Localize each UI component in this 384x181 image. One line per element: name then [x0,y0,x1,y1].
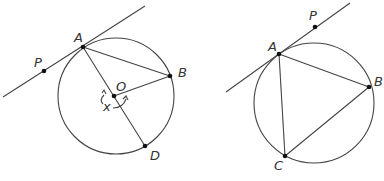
point-b [367,85,372,90]
geometry-diagram: A B O D P x A B C P [0,0,384,181]
right-tangent-line [226,3,350,92]
point-b [168,74,173,79]
label-a: A [267,39,277,54]
label-a: A [73,30,83,45]
chord-ab [83,47,170,76]
label-angle-x: x [102,99,111,114]
label-p: P [309,8,317,23]
point-a [81,45,86,50]
label-o: O [116,79,126,94]
angle-arc-right-icon [113,99,126,108]
arrowhead-left-icon [102,90,106,94]
left-figure: A B O D P x [3,6,187,163]
point-d [143,144,148,149]
side-ca [279,54,285,156]
point-c [283,154,288,159]
point-a [277,52,282,57]
label-b: B [374,74,383,89]
point-o [112,94,117,99]
label-b: B [178,65,187,80]
label-d: D [150,148,160,163]
label-p: P [34,55,42,70]
label-c: C [274,158,284,173]
point-p [42,69,47,74]
right-figure: A B C P [226,3,383,173]
point-p [313,25,318,30]
right-circle [254,43,374,163]
